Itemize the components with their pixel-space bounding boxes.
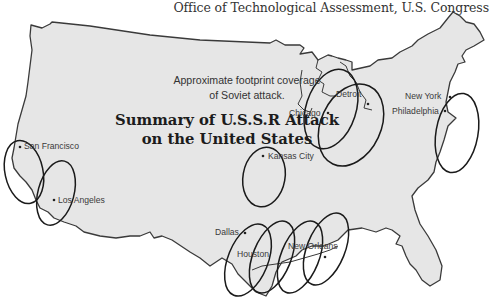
city-label-san-francisco: San Francisco [24,141,79,151]
map-figure: Approximate footprint coverage of Soviet… [0,0,495,306]
city-label-houston: Houston [237,249,269,259]
city-label-dallas: Dallas [215,227,239,237]
city-label-los-angeles: Los Angeles [58,195,105,205]
subtitle-line-2: of Soviet attack. [209,89,284,101]
city-label-detroit: Detroit [336,89,362,99]
source-credit: Office of Technological Assessment, U.S.… [173,0,489,15]
us-map: Approximate footprint coverage of Soviet… [0,0,495,306]
subtitle-line-1: Approximate footprint coverage [173,74,320,86]
city-label-kansas-city: Kansas City [268,151,315,161]
city-label-chicago: Chicago [289,108,321,118]
city-label-new-orleans: New Orleans [288,241,338,251]
city-label-new-york: New York [405,91,442,101]
map-title-line-2: on the United States [142,130,313,147]
city-label-philadelphia: Philadelphia [392,106,439,116]
